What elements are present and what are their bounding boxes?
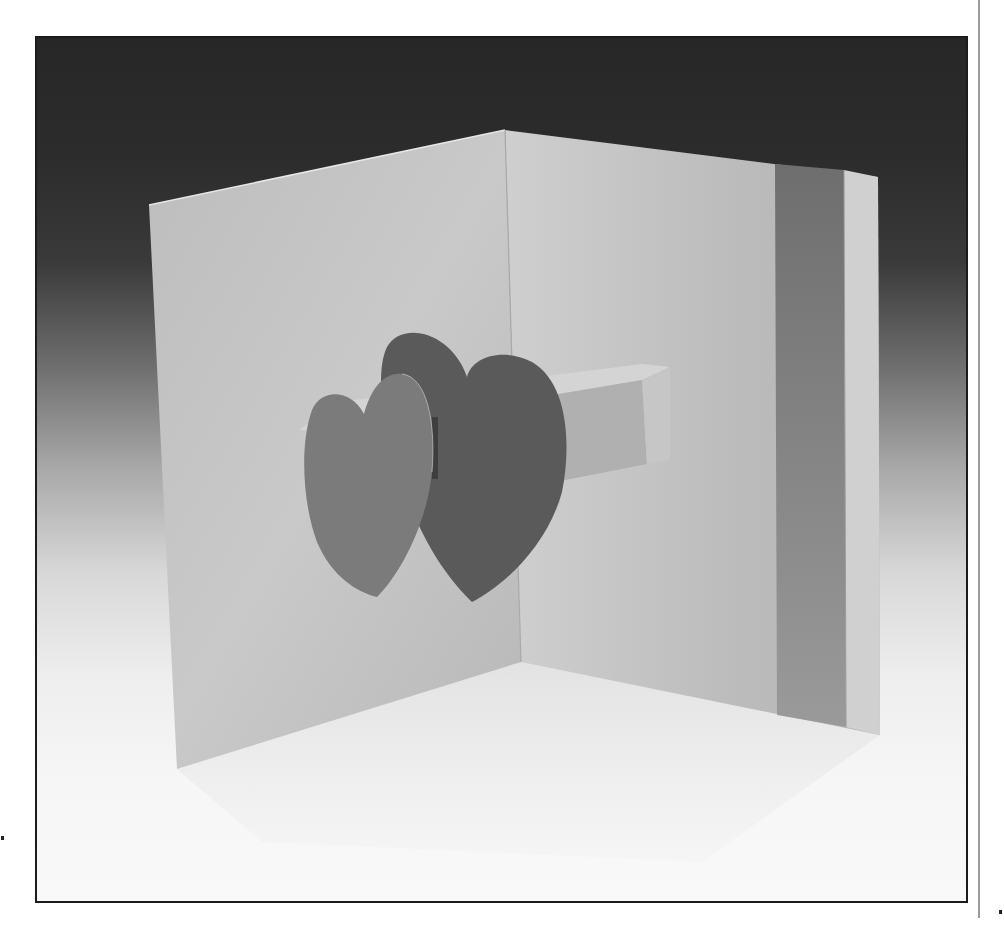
- page-margin-rule: [978, 0, 980, 918]
- edge-mark-left: [1, 836, 4, 840]
- edge-mark-right: [999, 910, 1002, 914]
- photo-frame: [35, 36, 968, 903]
- popup-card-photo: [37, 38, 968, 903]
- card-light-strip: [844, 170, 880, 735]
- card-dark-band: [775, 164, 846, 727]
- popup-beam-end: [642, 367, 670, 464]
